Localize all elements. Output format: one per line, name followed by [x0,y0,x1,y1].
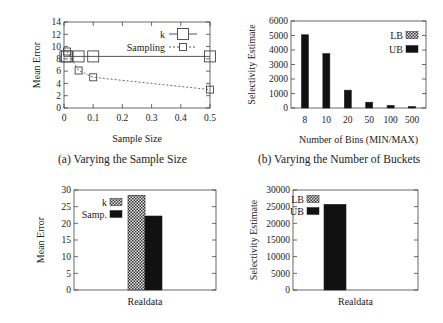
y-tick-label: 4000 [269,45,288,55]
bar-samp [145,216,162,290]
y-tick-label: 20 [62,219,72,229]
y-tick-label: 14 [52,17,62,27]
x-tick-label: 50 [364,115,374,125]
x-tick-label: 0.1 [87,113,99,123]
legend-swatch [406,32,418,39]
legend-marker [180,44,187,51]
chart-number-of-bins: 0100020003000400050006000Selectivity Est… [246,16,426,146]
y-tick-label: 5 [66,269,71,279]
x-axis-label: Realdata [128,296,164,307]
y-tick-label: 30000 [266,185,290,195]
chart-realdata-selectivity: 050001000015000200002500030000Selectivit… [248,185,418,307]
y-axis-label: Selectivity Estimate [246,24,257,105]
y-tick-label: 6000 [269,16,288,26]
bar-ub [409,107,416,108]
legend-label: UB [290,206,304,217]
y-tick-label: 5000 [271,269,290,279]
chart-realdata-mean-error: 051015202530Mean ErrorRealdatakSamp. [35,185,216,307]
y-axis-label: Selectivity Estimate [248,199,259,280]
bar-ub [366,102,373,108]
x-tick-label: 100 [384,115,399,125]
x-tick-label: 0.3 [146,113,158,123]
x-axis-label: Sample Size [112,133,162,144]
y-tick-label: 0 [56,103,61,113]
bar-ub [301,35,308,108]
caption-b: (b) Varying the Number of Buckets [258,153,420,165]
bar-ub [344,90,351,108]
y-tick-label: 6 [56,66,61,76]
y-tick-label: 25 [62,202,72,212]
x-tick-label: 0.5 [204,113,216,123]
legend-label: LB [291,194,304,205]
legend-label: Sampling [127,42,165,53]
y-tick-label: 12 [52,30,62,40]
y-tick-label: 0 [285,285,290,295]
y-tick-label: 25000 [266,202,290,212]
x-tick-label: 8 [303,115,308,125]
x-axis-label: Number of Bins (MIN/MAX) [299,134,418,146]
x-tick-label: 10 [322,115,332,125]
y-tick-label: 2000 [269,74,288,84]
y-tick-label: 15 [62,235,72,245]
x-axis-label: Realdata [338,296,374,307]
x-tick-label: 20 [343,115,353,125]
y-tick-label: 0 [66,285,71,295]
y-tick-label: 10 [62,252,72,262]
legend-swatch [110,199,122,206]
legend-swatch [110,211,122,218]
plot-frame [293,190,418,290]
y-tick-label: 2 [56,91,61,101]
y-tick-label: 1000 [269,89,288,99]
data-point-marker [75,67,82,74]
bar-ub [324,204,346,290]
x-tick-label: 500 [405,115,420,125]
y-tick-label: 0 [283,103,288,113]
legend-swatch [307,196,319,203]
y-tick-label: 15000 [266,235,290,245]
legend-marker [178,29,189,40]
y-tick-label: 8 [56,54,61,64]
legend-swatch [307,208,319,215]
y-tick-label: 30 [62,185,72,195]
legend-label: k [102,197,107,208]
legend-label: UB [389,44,403,55]
legend-swatch [406,46,418,53]
legend-label: k [160,29,165,40]
y-tick-label: 10000 [266,252,290,262]
y-tick-label: 3000 [269,60,288,70]
bar-k [128,195,145,290]
bar-ub [323,54,330,108]
y-tick-label: 4 [56,79,61,89]
legend-label: LB [390,30,403,41]
legend-label: Samp. [82,209,107,220]
y-axis-label: Mean Error [35,216,46,263]
x-tick-label: 0 [62,113,67,123]
y-tick-label: 5000 [269,31,288,41]
bar-ub [387,105,394,108]
x-tick-label: 0.4 [175,113,187,123]
caption-a: (a) Varying the Sample Size [58,153,187,165]
y-axis-label: Mean Error [31,41,42,88]
x-tick-label: 0.2 [116,113,128,123]
y-tick-label: 10 [52,42,62,52]
chart-sample-size: 02468101214Mean Error00.10.20.30.40.5Sam… [31,17,216,144]
y-tick-label: 20000 [266,219,290,229]
